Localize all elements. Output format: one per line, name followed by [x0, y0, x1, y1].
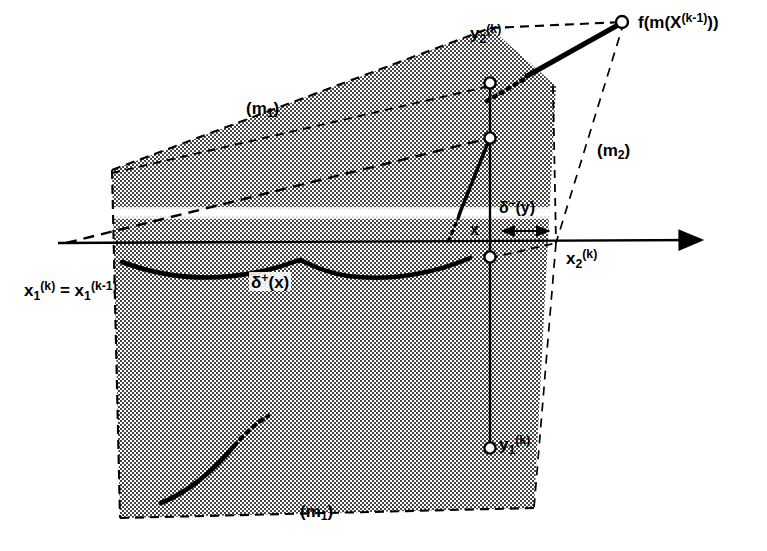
label-x-point: x: [470, 222, 479, 238]
node-y1: [484, 442, 495, 453]
label-delta-minus: δ−(y): [499, 198, 535, 216]
diagram-canvas: [0, 0, 767, 551]
figure-root: f(m(X(k-1))) y2(k) y1(k) x2(k) x1(k) = x…: [0, 0, 767, 551]
node-y2: [484, 77, 495, 88]
node-f-of-m: [616, 16, 628, 28]
label-x1-equation: x1(k) = x1(k-1): [24, 280, 117, 302]
label-y2: y2(k): [470, 23, 501, 45]
node-axis: [484, 251, 495, 262]
label-delta-plus: δ+(x): [249, 272, 291, 291]
label-f-of-m: f(m(X(k-1))): [638, 12, 719, 31]
label-m2: (m2): [597, 142, 630, 162]
label-x2: x2(k): [566, 248, 597, 270]
label-m1-top: (m1): [246, 100, 279, 120]
label-y1: y1(k): [499, 434, 530, 456]
segment-f-of-m: [527, 25, 618, 76]
label-m1-bottom: (m1): [300, 503, 333, 523]
node-mid: [484, 132, 495, 143]
